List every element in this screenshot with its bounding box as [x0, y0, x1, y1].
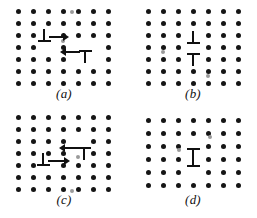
atom-faint [206, 74, 210, 78]
atom [146, 157, 151, 162]
atom [46, 151, 51, 156]
atom [236, 21, 241, 26]
atom [206, 157, 211, 162]
atom [161, 81, 166, 86]
atom [236, 9, 241, 14]
atom [76, 187, 81, 192]
atom [176, 81, 181, 86]
atom [106, 151, 111, 156]
motion-arrow-left [64, 147, 79, 149]
atom [31, 21, 36, 26]
atom [46, 9, 51, 14]
atom [16, 175, 21, 180]
dislocation-bar [37, 164, 50, 166]
atom [206, 81, 211, 86]
dislocation-bar [79, 50, 92, 52]
atom [146, 9, 151, 14]
atom [106, 45, 111, 50]
atom [61, 139, 66, 144]
atom [106, 175, 111, 180]
atom [16, 33, 21, 38]
atom [176, 131, 181, 136]
atom [146, 21, 151, 26]
panel-a: (a) [0, 0, 128, 109]
atom [46, 21, 51, 26]
atom [221, 131, 226, 136]
atom [206, 183, 211, 188]
atom [206, 118, 211, 123]
atom [191, 183, 196, 188]
atom [236, 33, 241, 38]
atom [161, 69, 166, 74]
atom [46, 175, 51, 180]
dislocation-stem [192, 31, 194, 42]
atom [91, 81, 96, 86]
atom [31, 115, 36, 120]
atom [106, 69, 111, 74]
atom [106, 33, 111, 38]
atom [46, 187, 51, 192]
atom [31, 81, 36, 86]
atom [206, 170, 211, 175]
atom [176, 183, 181, 188]
atom [206, 21, 211, 26]
atom [16, 81, 21, 86]
atom [91, 33, 96, 38]
atom [61, 175, 66, 180]
dislocation-bar [187, 42, 200, 44]
atom [61, 69, 66, 74]
atom [31, 139, 36, 144]
atom [221, 170, 226, 175]
atom [221, 21, 226, 26]
atom [221, 45, 226, 50]
atom [146, 57, 151, 62]
atom [91, 151, 96, 156]
atom [176, 33, 181, 38]
dislocation-stem [43, 29, 45, 40]
atom [236, 81, 241, 86]
atom [236, 170, 241, 175]
atom [16, 69, 21, 74]
dislocation-bar [38, 40, 51, 42]
atom [176, 170, 181, 175]
dislocation-stem [83, 149, 85, 160]
atom [191, 131, 196, 136]
atom [221, 69, 226, 74]
atom [221, 9, 226, 14]
atom [16, 9, 21, 14]
atom [61, 9, 66, 14]
atom-faint [208, 135, 212, 139]
atom [76, 33, 81, 38]
atom [76, 163, 81, 168]
atom [76, 115, 81, 120]
atom [91, 115, 96, 120]
motion-arrow-right [49, 36, 64, 38]
atom [176, 118, 181, 123]
atom [176, 21, 181, 26]
atom [91, 139, 96, 144]
atom [146, 131, 151, 136]
atom [46, 139, 51, 144]
atom [236, 131, 241, 136]
atom [61, 115, 66, 120]
atom [91, 9, 96, 14]
atom [221, 81, 226, 86]
atom [236, 157, 241, 162]
atom [31, 187, 36, 192]
atom [76, 9, 81, 14]
arrow-head [63, 33, 69, 41]
atom-faint [177, 148, 181, 152]
atom-faint [161, 50, 165, 54]
atom [46, 127, 51, 132]
atom [236, 69, 241, 74]
atom [106, 57, 111, 62]
atom [91, 69, 96, 74]
atom [31, 163, 36, 168]
atom [106, 139, 111, 144]
atom [146, 45, 151, 50]
atom [176, 9, 181, 14]
atom [161, 131, 166, 136]
atom [91, 175, 96, 180]
dislocation-bar [187, 53, 200, 55]
atom [206, 57, 211, 62]
